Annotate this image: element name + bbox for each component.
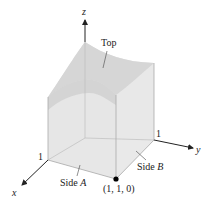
y-axis (154, 140, 193, 148)
y-tick-1: 1 (156, 128, 161, 139)
top-label: Top (101, 37, 116, 48)
point-marker (113, 176, 118, 181)
x-axis (22, 160, 48, 185)
side-a-label: Side A (60, 177, 87, 188)
side-b-label: Side B (137, 161, 163, 172)
point-label: (1, 1, 0) (103, 183, 135, 195)
x-tick-1: 1 (38, 151, 43, 162)
z-axis-label: z (81, 6, 86, 17)
solid-region-diagram: z x y 1 1 Top Side A Side B (1, 1, 0) (0, 0, 213, 210)
y-axis-label: y (195, 144, 201, 155)
x-axis-label: x (11, 187, 17, 198)
